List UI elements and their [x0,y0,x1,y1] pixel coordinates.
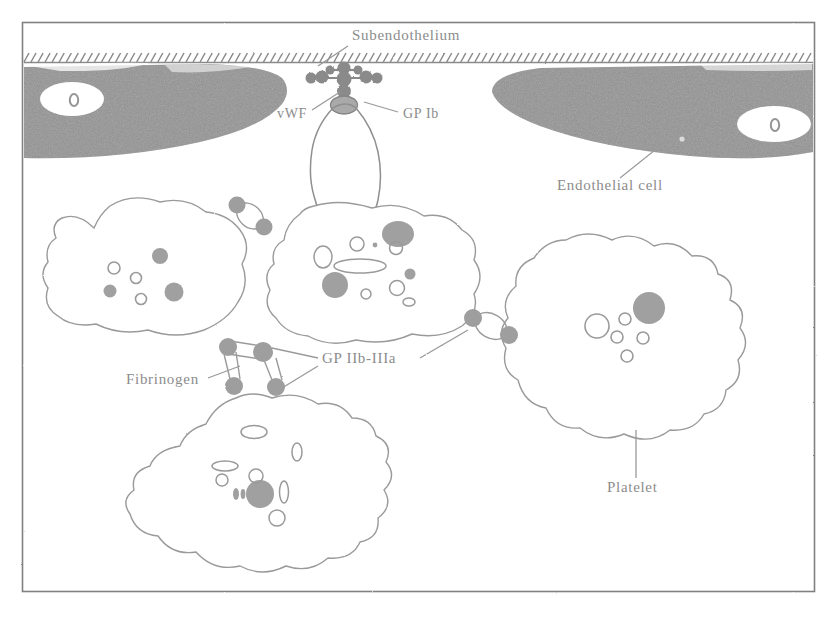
endothelial-cell-left [24,63,287,158]
subendothelium-hatch-mark [538,53,543,62]
subendothelium-hatch-mark [531,53,536,62]
subendothelium-hatch-mark [637,53,642,62]
platelet-bottom [126,394,392,572]
subendothelium-hatch-mark [609,53,614,62]
subendothelium-hatch-mark [66,53,71,62]
figure-root: Subendothelium vWF GP Ib Endothelial cel… [0,0,837,620]
subendothelium-hatch-mark [461,53,466,62]
subendothelium-hatch-mark [447,53,452,62]
leader-line-fibrinogen [208,366,240,378]
label-endothelial-cell: Endothelial cell [557,177,663,193]
leader-line-gp-iib-iiia [272,348,318,358]
subendothelium-hatch-mark [80,53,85,62]
subendothelium-hatch-mark [454,53,459,62]
label-gp-ib: GP Ib [403,106,439,121]
gp-iib-iiia-receptor [225,377,243,395]
subendothelium-hatch-mark [496,53,501,62]
subendothelium-hatch-mark [686,53,691,62]
subendothelium-hatch-mark [545,53,550,62]
subendothelium-hatch-mark [785,53,790,62]
gp-iib-iiia-receptor [229,197,246,214]
subendothelium-hatch-mark [412,53,417,62]
subendothelium-hatch-mark [299,53,304,62]
subendothelium-hatch-mark [59,53,64,62]
subendothelium-hatch-mark [665,53,670,62]
subendothelium-hatch-mark [440,53,445,62]
subendothelium-hatch-mark [109,53,114,62]
subendothelium-hatch-mark [200,53,205,62]
subendothelium-hatch-mark [503,53,508,62]
label-gp-iib-iiia: GP IIb-IIIa [322,350,396,366]
subendothelium-hatch-mark [397,53,402,62]
subendothelium-hatch-mark [348,53,353,62]
gp-ib-receptor [331,96,358,114]
subendothelium-hatch-mark [264,53,269,62]
subendothelium-hatch-mark [700,53,705,62]
subendothelium-hatch-mark [257,53,262,62]
subendothelium-hatch-mark [116,53,121,62]
subendothelium-hatch-mark [144,53,149,62]
subendothelium-hatch-mark [172,53,177,62]
subendothelium-hatch-mark [137,53,142,62]
subendothelium-hatch-mark [771,53,776,62]
subendothelium-hatch-mark [355,53,360,62]
vwf-multimer [306,62,383,101]
fibrinogen-bridge-center [219,338,285,396]
subendothelium-hatch-mark [721,53,726,62]
subendothelium-hatch-mark [778,53,783,62]
subendothelium-hatch-mark [566,53,571,62]
gp-iib-iiia-receptor [500,326,518,344]
subendothelium-hatch-mark [221,53,226,62]
leader-line-gp-ib [364,102,398,112]
subendothelium-hatch-mark [750,53,755,62]
subendothelium-hatch-mark [38,53,43,62]
subendothelium-hatch-mark [679,53,684,62]
subendothelium-hatch-mark [151,53,156,62]
subendothelium-hatch-mark [517,53,522,62]
subendothelium-hatch-mark [468,53,473,62]
subendothelium-hatch-mark [214,53,219,62]
subendothelium-hatch-mark [426,53,431,62]
subendothelium-hatch-mark [376,53,381,62]
subendothelium-hatch-mark [475,53,480,62]
subendothelium-hatch-mark [292,53,297,62]
subendothelium-hatch-mark [559,53,564,62]
subendothelium-hatch-mark [369,53,374,62]
subendothelium-hatch-mark [341,53,346,62]
subendothelium-hatch-mark [757,53,762,62]
subendothelium-hatch-mark [714,53,719,62]
subendothelium-hatch-mark [242,53,247,62]
label-subendothelium: Subendothelium [352,27,460,43]
label-fibrinogen: Fibrinogen [126,371,199,387]
gp-iib-iiia-receptor [464,309,482,327]
platelet-center [267,202,480,343]
subendothelium-hatch-mark [24,53,29,62]
subendothelium-hatch-mark [729,53,734,62]
subendothelium-hatch-mark [73,53,78,62]
subendothelium-hatch-mark [764,53,769,62]
subendothelium-hatch-mark [743,53,748,62]
subendothelium-hatch-mark [383,53,388,62]
subendothelium-hatch-mark [658,53,663,62]
gp-iib-iiia-receptor [256,219,273,236]
subendothelium-hatch-mark [278,53,283,62]
subendothelium-hatch-mark [799,53,804,62]
subendothelium-hatch-mark [207,53,212,62]
nucleus-right [737,106,811,142]
subendothelium-hatch-mark [419,53,424,62]
subendothelium-hatch-mark [433,53,438,62]
subendothelium-hatch-mark [52,53,57,62]
subendothelium-hatch-mark [581,53,586,62]
subendothelium-hatch-mark [235,53,240,62]
gp-iib-iiia-receptor [253,342,273,362]
label-platelet: Platelet [607,479,658,495]
subendothelium-hatch-mark [271,53,276,62]
subendothelium-hatch-mark [87,53,92,62]
subendothelium-hatch-mark [31,53,36,62]
subendothelium-hatch-mark [602,53,607,62]
endothelial-cell-right [492,63,813,159]
subendothelium-hatch-mark [94,53,99,62]
platelet-right [501,234,745,478]
subendothelium-hatch-mark [644,53,649,62]
leader-line-endothelial-cell [620,150,655,178]
